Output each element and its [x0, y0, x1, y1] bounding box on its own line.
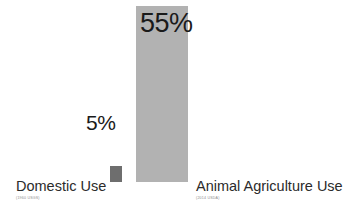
category-domestic-use: Domestic Use (1960 USGS)	[16, 179, 106, 200]
value-label-domestic-use: 5%	[86, 112, 115, 133]
value-label-animal-agriculture-use: 55%	[140, 10, 193, 37]
category-animal-agriculture-use: Animal Agriculture Use (2014 USDA)	[196, 179, 343, 200]
category-source-domestic-use: (1960 USGS)	[16, 196, 106, 200]
category-label-domestic-use: Domestic Use	[16, 179, 106, 194]
category-source-animal-agriculture-use: (2014 USDA)	[196, 196, 343, 200]
category-label-animal-agriculture-use: Animal Agriculture Use	[196, 179, 343, 194]
bar-domestic-use	[110, 166, 122, 182]
